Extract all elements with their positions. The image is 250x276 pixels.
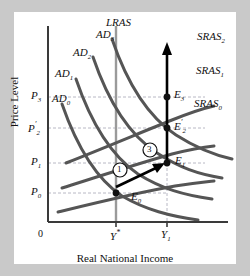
curve-label-SRAS2: SRAS2 bbox=[197, 31, 225, 45]
y-tick-label-p2prime: P′2 bbox=[28, 121, 40, 137]
curve-label-AD2: AD2 bbox=[73, 47, 91, 61]
equilibrium-label-E3: E3 bbox=[174, 89, 184, 103]
curve-label-SRAS0: SRAS0 bbox=[194, 98, 222, 112]
curve-label-SRAS1: SRAS1 bbox=[196, 65, 224, 79]
y-tick-label-p1: P1 bbox=[31, 156, 41, 170]
sras-curve-SRAS2 bbox=[66, 106, 214, 163]
x-axis-title: Real National Income bbox=[0, 252, 250, 264]
figure-frame: Price Level Real National Income 0 P3 P′… bbox=[0, 0, 250, 276]
curve-label-LRAS: LRAS bbox=[106, 17, 131, 28]
vertical-process-arrow-head bbox=[162, 42, 172, 55]
curve-label-AD3: AD3 bbox=[96, 29, 114, 43]
y-axis-title: Price Level bbox=[8, 62, 20, 142]
equilibrium-dot-E1 bbox=[164, 160, 171, 167]
equilibrium-label-E2prime: E′2 bbox=[174, 119, 186, 135]
step-marker-label-3: 3 bbox=[147, 145, 152, 154]
equilibrium-label-E0: E0 bbox=[131, 191, 141, 205]
equilibrium-dots bbox=[113, 94, 171, 197]
x-tick-label-y-star: Y* bbox=[110, 229, 120, 242]
curve-label-AD0: AD0 bbox=[52, 93, 70, 107]
y-tick-label-p0: P0 bbox=[31, 186, 41, 200]
equilibrium-dot-E3 bbox=[164, 94, 171, 101]
step-marker-label-1: 1 bbox=[117, 165, 122, 174]
x-tick-label-y1: Y1 bbox=[161, 229, 171, 243]
equilibrium-label-E1: E1 bbox=[175, 155, 185, 169]
curve-label-AD1: AD1 bbox=[55, 68, 73, 82]
equilibrium-dot-E0 bbox=[113, 190, 120, 197]
y-tick-label-p3: P3 bbox=[31, 90, 41, 104]
equilibrium-dot-E2prime bbox=[164, 125, 171, 132]
origin-label: 0 bbox=[38, 229, 43, 239]
